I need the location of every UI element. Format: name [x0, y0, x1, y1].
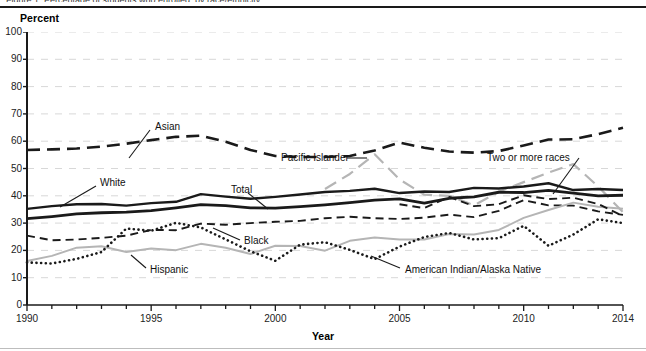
- annotation-label-white: White: [100, 178, 126, 188]
- annotation-label-black: Black: [244, 236, 268, 246]
- x-tick-label: 2010: [504, 314, 544, 324]
- y-tick-label: 100: [0, 27, 22, 37]
- y-tick-label: 80: [0, 82, 22, 92]
- annotation-label-american-indian-alaska-native: American Indian/Alaska Native: [405, 265, 541, 275]
- annotation-label-hispanic: Hispanic: [150, 265, 188, 275]
- y-tick-label: 40: [0, 191, 22, 201]
- annotation-label-pacific-islander: Pacific Islander: [281, 153, 349, 163]
- annotation-label-asian: Asian: [155, 122, 180, 132]
- y-tick-label: 90: [0, 54, 22, 64]
- x-tick-label: 2014: [603, 314, 643, 324]
- x-axis-title: Year: [0, 330, 646, 342]
- y-tick-label: 20: [0, 245, 22, 255]
- y-tick-label: 70: [0, 109, 22, 119]
- clipped-figure-title: Figure 1. Percentage of students who enr…: [6, 0, 260, 2]
- y-axis-title: Percent: [20, 12, 59, 24]
- top-divider: [0, 6, 646, 8]
- annotation-label-two-or-more-races: Two or more races: [487, 153, 570, 163]
- x-tick-label: 1990: [7, 314, 47, 324]
- y-tick-label: 50: [0, 164, 22, 174]
- x-tick-label: 1995: [131, 314, 171, 324]
- x-tick-label: 2005: [380, 314, 420, 324]
- bottom-divider: [0, 348, 646, 349]
- x-tick-label: 2000: [255, 314, 295, 324]
- y-tick-label: 60: [0, 136, 22, 146]
- figure-container: Figure 1. Percentage of students who enr…: [0, 0, 646, 351]
- series-line-american-indian-alaska-native: [27, 219, 623, 263]
- y-tick-label: 30: [0, 218, 22, 228]
- y-tick-label: 0: [0, 300, 22, 310]
- annotation-label-total: Total: [231, 185, 252, 195]
- y-tick-label: 10: [0, 273, 22, 283]
